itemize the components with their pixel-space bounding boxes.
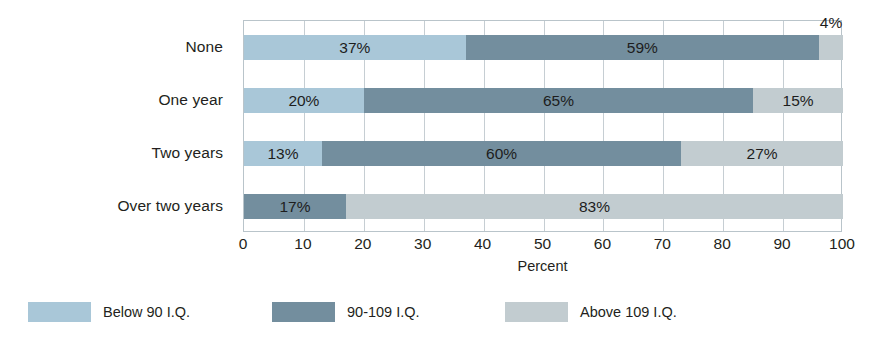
category-label: None — [186, 34, 223, 60]
legend-label: 90-109 I.Q. — [347, 304, 420, 320]
legend-swatch — [272, 302, 335, 322]
x-tick-label: 0 — [239, 235, 248, 253]
category-label: One year — [158, 87, 223, 113]
bar-row: 13%60%27% — [244, 141, 841, 166]
x-tick-label: 90 — [773, 235, 790, 253]
bar-segment — [681, 141, 843, 166]
x-tick-label: 40 — [474, 235, 491, 253]
x-tick-label: 80 — [714, 235, 731, 253]
bar-row: 17%83% — [244, 194, 841, 219]
x-tick-label: 20 — [354, 235, 371, 253]
stacked-bar-chart-figure: NoneOne yearTwo yearsOver two years 37%5… — [0, 0, 874, 351]
bar-segment — [466, 35, 819, 60]
category-axis-labels: NoneOne yearTwo yearsOver two years — [0, 20, 233, 232]
x-axis-title: Percent — [243, 258, 842, 274]
legend-swatch — [28, 302, 91, 322]
legend-item[interactable]: Above 109 I.Q. — [505, 300, 677, 324]
category-label: Over two years — [117, 193, 223, 219]
legend-label: Below 90 I.Q. — [103, 304, 190, 320]
x-tick-label: 10 — [294, 235, 311, 253]
x-tick-label: 50 — [534, 235, 551, 253]
bar-segment — [364, 88, 753, 113]
segment-value-label: 4% — [791, 11, 871, 35]
legend-swatch — [505, 302, 568, 322]
x-tick-label: 60 — [594, 235, 611, 253]
category-label: Two years — [151, 140, 223, 166]
bar-segment — [819, 35, 843, 60]
legend-item[interactable]: Below 90 I.Q. — [28, 300, 190, 324]
x-axis-tick-labels: 0102030405060708090100 — [243, 232, 842, 256]
legend-item[interactable]: 90-109 I.Q. — [272, 300, 420, 324]
bar-segment — [753, 88, 843, 113]
bar-segment — [346, 194, 843, 219]
x-tick-label: 70 — [654, 235, 671, 253]
caption-sliver — [0, 341, 874, 351]
plot-area: 37%59%4%20%65%15%13%60%27%17%83% — [243, 20, 842, 232]
bar-segment — [244, 35, 466, 60]
bar-segment — [244, 194, 346, 219]
bar-segment — [244, 88, 364, 113]
bar-series-container: 37%59%4%20%65%15%13%60%27%17%83% — [244, 21, 841, 231]
bar-row: 37%59%4% — [244, 35, 841, 60]
x-tick-label: 100 — [829, 235, 855, 253]
chart-legend: Below 90 I.Q.90-109 I.Q.Above 109 I.Q. — [0, 300, 874, 328]
x-tick-label: 30 — [414, 235, 431, 253]
bar-segment — [322, 141, 681, 166]
bar-row: 20%65%15% — [244, 88, 841, 113]
legend-label: Above 109 I.Q. — [580, 304, 677, 320]
bar-segment — [244, 141, 322, 166]
